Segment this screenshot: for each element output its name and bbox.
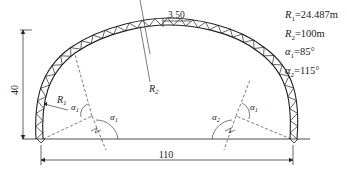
truss-depth-label: 3.50 — [168, 10, 185, 20]
r2-leader-line — [140, 26, 150, 82]
right-alpha1-label: α1 — [250, 102, 258, 113]
span-label: 110 — [159, 149, 174, 160]
right-alpha1-arc — [242, 103, 250, 119]
span-arrow-left — [41, 158, 45, 162]
left-alpha1-arc-upper — [81, 104, 88, 117]
left-center-mark — [91, 128, 101, 133]
parameter-legend: R1=24.487m R2=100m α1=85° α2=115° — [285, 8, 338, 82]
left-support — [37, 139, 45, 143]
legend-alpha1: α1=85° — [285, 45, 338, 64]
right-center-mark — [225, 128, 235, 133]
arch-outer-chord — [36, 18, 298, 139]
height-arrow-top — [21, 30, 25, 34]
legend-r1: R1=24.487m — [285, 8, 338, 27]
r2-label: R2 — [148, 83, 159, 96]
right-radius-dashed — [236, 116, 291, 139]
r1-label: R1 — [56, 94, 67, 107]
left-alpha1-lower-label: α1 — [110, 112, 118, 123]
right-alpha2-label: α2 — [212, 112, 221, 123]
legend-alpha2: α2=115° — [285, 64, 338, 83]
right-support — [290, 139, 298, 143]
left-alpha1-upper-label: α1 — [71, 102, 79, 113]
height-arrow-bottom — [21, 135, 25, 139]
truss-web-members — [36, 18, 298, 139]
left-radius-dashed — [43, 116, 92, 139]
height-label: 40 — [9, 85, 20, 95]
truss-zigzag — [36, 18, 298, 139]
right-vertical-dashed — [236, 80, 250, 116]
span-arrow-right — [289, 158, 293, 162]
legend-r2: R2=100m — [285, 27, 338, 46]
